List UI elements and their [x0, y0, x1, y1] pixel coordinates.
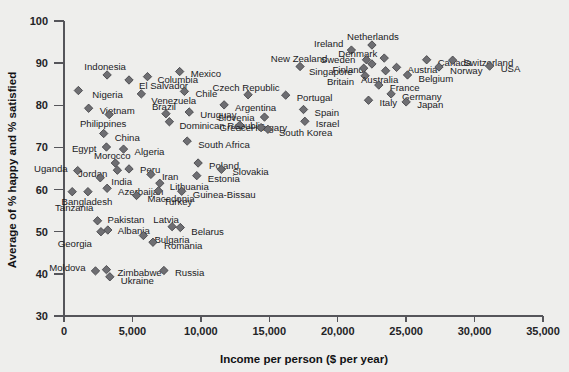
- data-point-label: Pakistan: [108, 214, 145, 225]
- data-point-label: Algeria: [135, 146, 166, 157]
- data-point: Pakistan: [93, 214, 144, 225]
- y-tick-label: 70: [36, 141, 48, 153]
- x-tick-label: 30,000: [458, 325, 492, 337]
- data-point-label: Moldova: [49, 262, 86, 273]
- data-point: Moldova: [49, 262, 99, 275]
- data-point-label: Czech Republic: [212, 82, 279, 93]
- x-tick-label: 0: [61, 325, 67, 337]
- data-point-label: India: [111, 176, 132, 187]
- data-point-label: Belgium: [419, 73, 454, 84]
- data-point-label: Uganda: [34, 163, 68, 174]
- data-point-label: Israel: [316, 118, 339, 129]
- diamond-marker-icon: [113, 166, 121, 174]
- diamond-marker-icon: [299, 105, 307, 113]
- diamond-marker-icon: [125, 76, 133, 84]
- diamond-marker-icon: [84, 187, 92, 195]
- diamond-marker-icon: [84, 104, 92, 112]
- diamond-marker-icon: [183, 137, 191, 145]
- data-point-label: Japan: [417, 99, 443, 110]
- x-tick-label: 10,000: [184, 325, 218, 337]
- diamond-marker-icon: [68, 187, 76, 195]
- data-point-label: Belarus: [191, 226, 224, 237]
- data-point-label: Estonia: [208, 173, 241, 184]
- diamond-marker-icon: [296, 62, 304, 70]
- y-tick-label: 30: [36, 310, 48, 322]
- data-point-label: South Africa: [198, 139, 250, 150]
- diamond-marker-icon: [193, 171, 201, 179]
- data-points-group: NigeriaIndonesiaEl SalvadorColumbiaMexic…: [34, 31, 521, 286]
- data-point-label: Guinea-Bissau: [193, 189, 256, 200]
- diamond-marker-icon: [97, 228, 105, 236]
- data-point: Czech Republic: [212, 82, 279, 99]
- diamond-marker-icon: [282, 91, 290, 99]
- data-point-label: Norway: [450, 65, 483, 76]
- data-point: Peru: [125, 164, 160, 175]
- data-point-label: USA: [501, 63, 521, 74]
- diamond-marker-icon: [392, 63, 400, 71]
- x-tick-label: 35,000: [526, 325, 560, 337]
- diamond-marker-icon: [93, 217, 101, 225]
- data-point-label: Tanzania: [55, 202, 94, 213]
- data-point: Latvia: [153, 214, 179, 231]
- data-point-label: Netherlands: [347, 31, 399, 42]
- y-tick-label: 50: [36, 226, 48, 238]
- data-point: USA: [485, 62, 521, 74]
- data-point: Russia: [160, 266, 205, 278]
- diamond-marker-icon: [103, 184, 111, 192]
- x-tick-label: 15,000: [252, 325, 286, 337]
- data-point-label: Britain: [327, 76, 354, 87]
- data-point: Morocco: [94, 150, 131, 167]
- diamond-marker-icon: [125, 165, 133, 173]
- diamond-marker-icon: [364, 96, 372, 104]
- diamond-marker-icon: [301, 117, 309, 125]
- data-point-label: Mexico: [191, 68, 221, 79]
- data-point-label: Nigeria: [92, 89, 123, 100]
- data-point-label: China: [115, 132, 141, 143]
- plot-canvas: 05,00010,00015,00020,00025,00030,00035,0…: [0, 0, 569, 372]
- diamond-marker-icon: [194, 159, 202, 167]
- data-point: Japan: [402, 98, 443, 110]
- data-point-label: Philippines: [80, 118, 127, 129]
- diamond-marker-icon: [103, 71, 111, 79]
- data-point-label: Portugal: [297, 92, 333, 103]
- data-point: Uganda: [34, 163, 82, 175]
- data-point: China: [99, 129, 140, 142]
- y-tick-label: 80: [36, 99, 48, 111]
- data-point: Spain: [299, 105, 339, 117]
- y-axis-title: Average of % happy and % satisfied: [6, 72, 18, 268]
- data-point-label: Georgia: [58, 238, 93, 249]
- data-point: Indonesia: [84, 61, 126, 79]
- data-point-label: Ukraine: [121, 275, 154, 286]
- y-tick-label: 100: [30, 15, 48, 27]
- diamond-marker-icon: [91, 267, 99, 275]
- diamond-marker-icon: [99, 129, 107, 137]
- data-point: Netherlands: [347, 31, 399, 49]
- y-tick-label: 40: [36, 268, 48, 280]
- diamond-marker-icon: [104, 226, 112, 234]
- diamond-marker-icon: [185, 108, 193, 116]
- data-point-label: Romania: [164, 240, 203, 251]
- y-tick-label: 90: [36, 57, 48, 69]
- data-point-label: Greece: [220, 122, 251, 133]
- y-tick-label: 60: [36, 184, 48, 196]
- data-point-label: Brazil: [152, 101, 176, 112]
- x-tick-label: 20,000: [321, 325, 355, 337]
- data-point-label: Russia: [175, 267, 205, 278]
- data-point: South Africa: [183, 137, 251, 150]
- data-point-label: New Zealand: [271, 53, 328, 64]
- x-tick-label: 25,000: [389, 325, 423, 337]
- data-point: Italy: [364, 96, 397, 108]
- x-tick-label: 5,000: [119, 325, 147, 337]
- diamond-marker-icon: [422, 56, 430, 64]
- diamond-marker-icon: [74, 86, 82, 94]
- diamond-marker-icon: [220, 101, 228, 109]
- data-point: India: [96, 174, 133, 187]
- data-point-label: Macedonia: [148, 193, 196, 204]
- data-point-label: Latvia: [153, 214, 179, 225]
- data-point: Ukraine: [106, 273, 154, 286]
- scatter-chart-figure: 05,00010,00015,00020,00025,00030,00035,0…: [0, 0, 569, 372]
- diamond-marker-icon: [380, 54, 388, 62]
- data-point: Georgia: [58, 228, 105, 249]
- data-point: Nigeria: [74, 86, 123, 99]
- diamond-marker-icon: [165, 118, 173, 126]
